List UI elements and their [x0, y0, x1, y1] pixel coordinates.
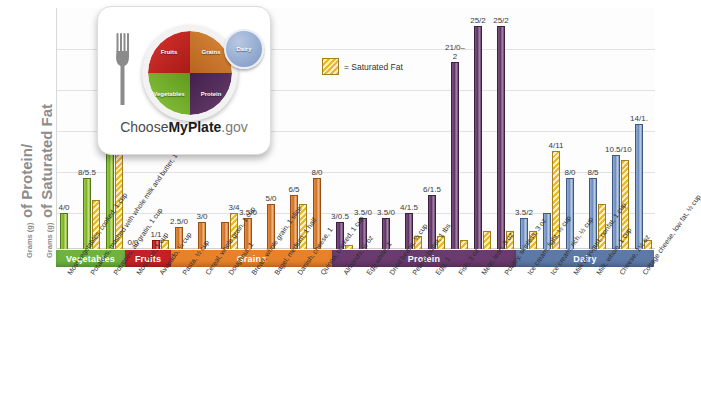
wordmark-myplate: MyPlate	[168, 119, 221, 135]
y-axis-units-2: Grams (g)	[45, 223, 54, 258]
myplate-logo: Fruits Grains Vegetables Protein Dairy C…	[97, 6, 271, 155]
bar-value-label: 4/1.5	[400, 203, 418, 212]
bar-value-label: 5/0	[265, 194, 276, 203]
bar-group: 4/0	[60, 8, 83, 249]
bar-value-label: 2.5/0	[170, 217, 188, 226]
y-axis-title-protein: Grams (g) of Protein/	[18, 144, 36, 258]
bar-value-label: 4/0	[58, 203, 69, 212]
bar-value-label: 8/0	[311, 168, 322, 177]
plate-quadrant-fruits: Fruits	[148, 31, 190, 73]
dairy-label: Dairy	[236, 46, 251, 52]
bar-group: 8/5	[589, 8, 612, 249]
myplate-wordmark: ChooseMyPlate.gov	[98, 119, 270, 135]
bar-value-label: 3.5/0	[377, 208, 395, 217]
bar-value-label: 3.5/0	[354, 208, 372, 217]
bar-group: 21/0–2	[451, 8, 474, 249]
saturated-fat-bar[interactable]	[483, 231, 491, 249]
plate-label-vegetables: Vegetables	[153, 91, 184, 97]
y-axis-units-1: Grams (g)	[25, 223, 34, 258]
y-axis-text-1: of Protein/	[18, 144, 35, 218]
bar-group: 8/0	[566, 8, 589, 249]
plate-quadrant-protein: Protein	[190, 73, 232, 115]
plate-label-grains: Grains	[201, 49, 220, 55]
protein-bar[interactable]: 25/2	[474, 26, 482, 249]
bar-group: 25/2	[474, 8, 497, 249]
bar-value-label: 6/5	[288, 185, 299, 194]
bar-value-label: 8/5.5	[78, 168, 96, 177]
protein-bar[interactable]: 12/11.5	[106, 142, 114, 249]
bar-value-label: 8/5	[587, 168, 598, 177]
saturated-fat-swatch-icon	[322, 58, 339, 75]
bar-value-label: 3/0.5	[331, 212, 349, 221]
y-axis-text-2: of Saturated Fat	[38, 104, 55, 218]
bar-value-label: 10.5/10	[605, 145, 627, 154]
wordmark-choose: Choose	[120, 119, 168, 135]
plate-quadrant-vegetables: Vegetables	[148, 73, 190, 115]
bar-group: 4/11	[543, 8, 566, 249]
bar-value-label: 21/0–2	[444, 43, 466, 61]
bar-value-label: 4/11	[549, 141, 564, 150]
saturated-fat-bar[interactable]	[460, 240, 468, 249]
bar-value-label: 25/2	[493, 16, 509, 25]
bar-value-label: 6/1.5	[423, 185, 441, 194]
bar-value-label: 8/0	[564, 168, 575, 177]
dairy-circle: Dairy	[224, 29, 264, 69]
protein-bar[interactable]: 25/2	[497, 26, 505, 249]
legend: = Saturated Fat	[322, 58, 403, 75]
bar-group: 3.5/0	[382, 8, 405, 249]
category-band-vegetables: Vegetables	[56, 250, 125, 267]
bar-group: 14/1.	[635, 8, 658, 249]
protein-bar[interactable]: 10.5/10	[612, 155, 620, 249]
protein-bar[interactable]: 14/1.	[635, 124, 643, 249]
bar-group: 3.5/2	[520, 8, 543, 249]
bar-group: 4/1.5	[405, 8, 428, 249]
bar-value-label: 3/0	[196, 212, 207, 221]
bar-value-label: 14/1.	[630, 114, 648, 123]
plate-inner: Fruits Grains Vegetables Protein	[148, 31, 232, 115]
wordmark-gov: .gov	[221, 119, 247, 135]
plate-graphic: Fruits Grains Vegetables Protein	[142, 25, 238, 121]
protein-bar[interactable]: 21/0–2	[451, 62, 459, 249]
protein-bar[interactable]: 4/0	[60, 213, 68, 249]
bar-value-label: 3.5/2	[515, 208, 533, 217]
bar-value-label: 3/4	[228, 203, 239, 212]
plate-label-protein: Protein	[201, 91, 222, 97]
x-axis-labels: Most vegetables, cooked, 1 cupPotatoes, …	[0, 268, 655, 404]
legend-label: = Saturated Fat	[344, 62, 403, 72]
fork-icon	[116, 33, 130, 105]
plate-label-fruits: Fruits	[161, 49, 178, 55]
bar-value-label: 25/2	[470, 16, 486, 25]
y-axis-title-saturated-fat: Grams (g) of Saturated Fat	[38, 104, 56, 258]
